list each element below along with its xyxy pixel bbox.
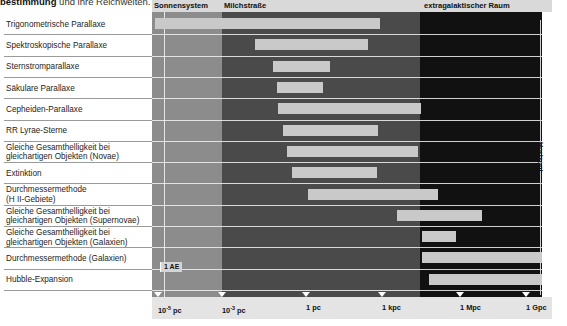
x-axis: 10-5 pc10-3 pc1 pc1 kpc1 Mpc1 Gpc: [152, 297, 552, 319]
method-label-line2: gleichartigen Objekten (Novae): [6, 152, 119, 162]
method-label-line1: Durchmessermethode: [6, 185, 87, 195]
method-label-column: Trigonometrische ParallaxeSpektroskopisc…: [0, 12, 152, 297]
plot-row-divider: [152, 226, 542, 227]
method-label: Gleiche Gesamthelligkeit beigleichartige…: [6, 206, 150, 227]
axis-tick-label: 10-5 pc: [158, 297, 182, 316]
range-bar: [287, 146, 418, 157]
plot-row-divider: [152, 34, 542, 35]
method-label-line1: Spektroskopische Parallaxe: [6, 41, 107, 51]
method-label: Spektroskopische Parallaxe: [6, 35, 150, 56]
plot-row-divider: [152, 205, 542, 206]
axis-tick-label: 1 Mpc: [460, 297, 481, 313]
axis-tick-label: 1 Gpc: [526, 297, 547, 313]
range-bar: [155, 18, 319, 29]
plot-area: 1 AE: [152, 12, 542, 297]
range-bar: [273, 61, 330, 72]
method-label: Durchmessermethode (Galaxien): [6, 248, 150, 269]
plot-row-divider: [152, 77, 542, 78]
caption-bold: bestimmung: [0, 0, 56, 7]
method-label-line1: Gleiche Gesamthelligkeit bei: [6, 143, 119, 153]
chart-root: bestimmung und ihre Reichweiten. Sonnens…: [0, 0, 567, 326]
plot-row-divider: [152, 120, 542, 121]
method-label: RR Lyrae-Sterne: [6, 121, 150, 142]
method-label: Trigonometrische Parallaxe: [6, 14, 150, 35]
horizon-label: Horizont: [536, 142, 545, 172]
range-bar: [422, 231, 456, 242]
plot-row-divider: [152, 141, 542, 142]
plot-row-divider: [152, 162, 542, 163]
plot-row-divider: [152, 269, 542, 270]
method-label-line1: Extinktion: [6, 169, 42, 179]
method-label-line1: Gleiche Gesamthelligkeit bei: [6, 207, 139, 217]
method-label: Sternstromparallaxe: [6, 57, 150, 78]
method-label: Säkulare Parallaxe: [6, 78, 150, 99]
range-bar: [397, 210, 482, 221]
method-label: Cepheiden-Parallaxe: [6, 99, 150, 120]
method-label: Gleiche Gesamthelligkeit beigleichartige…: [6, 142, 150, 163]
region-label-extra: extragalaktischer Raum: [424, 0, 510, 12]
region-header-strip: SonnensystemMilchstraßeextragalaktischer…: [152, 0, 552, 12]
region-label-solar: Sonnensystem: [154, 0, 208, 12]
range-bar: [422, 252, 542, 263]
plot-row-divider: [152, 183, 542, 184]
method-label-line1: Sternstromparallaxe: [6, 62, 79, 72]
range-bar-extension: [319, 18, 380, 29]
method-label-line1: Trigonometrische Parallaxe: [6, 20, 105, 30]
region-label-milky: Milchstraße: [224, 0, 266, 12]
method-label-line2: (H II-Gebiete): [6, 195, 87, 205]
range-bar: [308, 189, 438, 200]
axis-tick-label: 10-3 pc: [222, 297, 246, 316]
range-bar: [278, 103, 421, 114]
method-label-line2: gleichartigen Objekten (Supernovae): [6, 216, 139, 226]
plot-row-divider: [152, 56, 542, 57]
method-label-line1: Gleiche Gesamthelligkeit bei: [6, 228, 128, 238]
plot-row-divider: [152, 290, 542, 291]
method-label-line1: RR Lyrae-Sterne: [6, 126, 67, 136]
axis-tick-label: 1 pc: [306, 297, 321, 313]
range-bar: [283, 125, 378, 136]
plot-row-divider: [152, 247, 542, 248]
method-label-line2: gleichartigen Objekten (Galaxien): [6, 238, 128, 248]
caption-rest: und ihre Reichweiten.: [56, 0, 150, 7]
method-label: Hubble-Expansion: [6, 270, 150, 291]
range-bar: [255, 39, 368, 50]
range-bar: [292, 167, 377, 178]
row-divider: [4, 290, 152, 291]
range-bar: [429, 274, 542, 285]
method-label: Extinktion: [6, 163, 150, 184]
method-label: Durchmessermethode(H II-Gebiete): [6, 184, 150, 205]
chart-body: SonnensystemMilchstraßeextragalaktischer…: [0, 12, 553, 320]
au-marker: 1 AE: [160, 262, 182, 272]
method-label-line1: Durchmessermethode (Galaxien): [6, 254, 127, 264]
method-label-line1: Cepheiden-Parallaxe: [6, 105, 82, 115]
method-label-line1: Hubble-Expansion: [6, 275, 73, 285]
range-bar: [277, 82, 323, 93]
axis-tick-label: 1 kpc: [382, 297, 401, 313]
method-label-line1: Säkulare Parallaxe: [6, 84, 75, 94]
plot-row-divider: [152, 98, 542, 99]
method-label: Gleiche Gesamthelligkeit beigleichartige…: [6, 227, 150, 248]
